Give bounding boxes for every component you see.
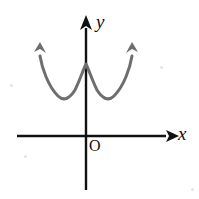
- y-axis-arrow-icon: [80, 15, 92, 30]
- scan-speck: [191, 188, 194, 191]
- x-axis-label: x: [178, 124, 186, 143]
- curve-right-arrow-icon: [126, 42, 138, 53]
- scan-speck: [10, 84, 13, 87]
- curve-left-arrow-icon: [34, 42, 46, 53]
- figure-canvas: y x O: [0, 0, 199, 199]
- y-axis-label: y: [96, 12, 104, 31]
- scan-speck: [160, 66, 163, 69]
- origin-label: O: [89, 138, 101, 154]
- scan-speck: [24, 155, 27, 158]
